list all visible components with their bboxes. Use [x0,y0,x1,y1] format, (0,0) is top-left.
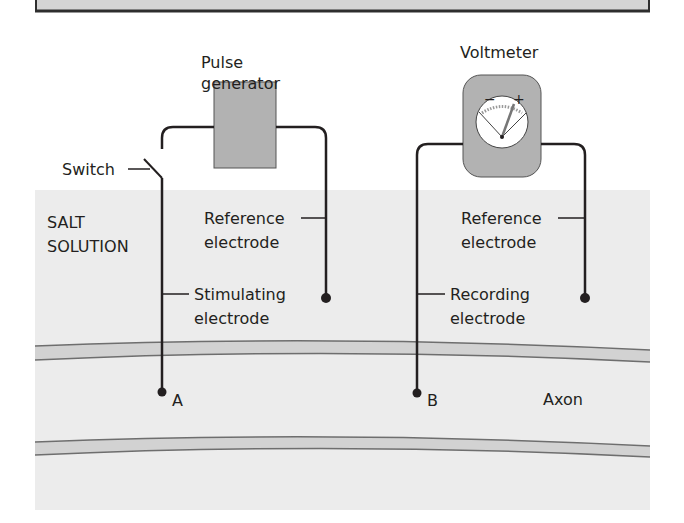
voltmeter-icon: − + [463,75,541,177]
right-reference-electrode-tip [580,293,590,303]
stimulating-electrode-tip [158,388,167,397]
electrophysiology-diagram: Pulse generator Switch SALT SOLUTION Ref… [0,0,684,523]
stimulating-label-2: electrode [194,309,269,328]
voltmeter-label: Voltmeter [460,43,539,62]
point-a-label: A [172,391,183,410]
axon-label: Axon [543,390,583,409]
pulse-generator-label-2: generator [201,74,280,93]
voltmeter-minus: − [484,91,496,107]
recording-label-2: electrode [450,309,525,328]
top-panel-edge [35,0,650,12]
pulse-generator-label-1: Pulse [201,53,243,72]
salt-solution-label-1: SALT [47,213,85,232]
voltmeter-plus: + [513,91,525,107]
switch-label: Switch [62,160,115,179]
recording-electrode-tip [413,389,422,398]
left-reference-label-1: Reference [204,209,285,228]
left-reference-label-2: electrode [204,233,279,252]
right-reference-label-2: electrode [461,233,536,252]
salt-solution-label-2: SOLUTION [47,237,129,256]
left-reference-electrode-tip [321,293,331,303]
right-reference-label-1: Reference [461,209,542,228]
recording-label-1: Recording [450,285,530,304]
stimulating-label-1: Stimulating [194,285,286,304]
pulse-generator-box [214,82,276,168]
point-b-label: B [427,391,438,410]
